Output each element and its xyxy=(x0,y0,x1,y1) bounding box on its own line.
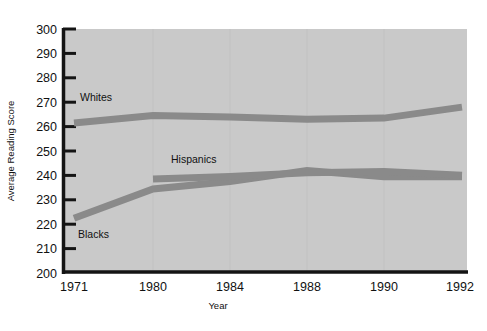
series-label-blacks: Blacks xyxy=(78,228,109,240)
chart-figure: 300 290 280 270 260 250 240 230 220 210 … xyxy=(0,0,487,331)
y-tick-label-270: 270 xyxy=(36,96,57,110)
x-tick-label-1980: 1980 xyxy=(139,280,167,294)
x-axis-title: Year xyxy=(208,300,227,311)
y-tick-label-210: 210 xyxy=(36,242,57,256)
plot-background xyxy=(62,29,467,273)
y-axis-title: Average Reading Score xyxy=(5,101,16,202)
x-tick-label-1992: 1992 xyxy=(446,280,474,294)
reading-score-line-chart: 300 290 280 270 260 250 240 230 220 210 … xyxy=(0,0,487,331)
y-tick-label-200: 200 xyxy=(36,267,57,281)
x-tick-label-1990: 1990 xyxy=(370,280,398,294)
y-tick-label-280: 280 xyxy=(36,71,57,85)
series-label-hispanics: Hispanics xyxy=(171,153,217,165)
y-tick-label-300: 300 xyxy=(36,23,57,37)
y-tick-label-230: 230 xyxy=(36,193,57,207)
x-tick-label-1988: 1988 xyxy=(293,280,321,294)
y-tick-label-260: 260 xyxy=(36,120,57,134)
x-tick-label-1971: 1971 xyxy=(60,280,88,294)
x-tick-label-1984: 1984 xyxy=(216,280,244,294)
y-tick-label-240: 240 xyxy=(36,169,57,183)
y-tick-label-250: 250 xyxy=(36,145,57,159)
y-tick-label-220: 220 xyxy=(36,218,57,232)
series-label-whites: Whites xyxy=(80,91,112,103)
y-tick-label-290: 290 xyxy=(36,47,57,61)
